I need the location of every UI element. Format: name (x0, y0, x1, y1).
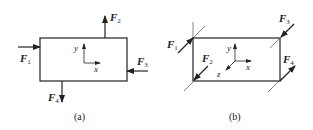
force-f1-arrow (178, 38, 193, 53)
y-axis-label: y (73, 43, 78, 53)
caption-b: (b) (229, 111, 241, 123)
force-f4-label: F4 (282, 53, 294, 67)
force-f2-label: F2 (201, 52, 213, 66)
figure-a: F1 F2 F3 F4 y x (a) (18, 11, 148, 123)
z-axis (226, 61, 235, 70)
caption-a: (a) (74, 111, 85, 123)
force-f3-label: F3 (136, 55, 148, 69)
body-rectangle (40, 38, 127, 81)
force-f4-arrow (280, 66, 295, 81)
corner-line-br-diag (268, 78, 282, 92)
corner-line-bl-diag (184, 78, 197, 91)
y-axis-label: y (226, 43, 231, 53)
force-f2-label: F2 (109, 11, 121, 25)
z-axis-label: z (216, 69, 221, 79)
x-axis-label: x (93, 64, 98, 74)
force-f2-arrow (194, 66, 208, 80)
x-axis-label: x (245, 62, 250, 72)
force-f3-label: F3 (278, 12, 290, 26)
figure-b: F1 F2 F3 F4 y x z (b) (166, 12, 295, 123)
force-f1-label: F1 (19, 52, 31, 66)
force-f4-label: F4 (47, 91, 59, 105)
force-diagram: F1 F2 F3 F4 y x (a) F1 F2 F3 (0, 0, 313, 130)
force-f1-label: F1 (166, 38, 178, 52)
